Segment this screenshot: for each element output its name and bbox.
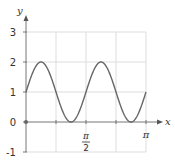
x-tick-label-pi-half: π π 2 bbox=[82, 131, 90, 153]
y-tick-label: -1 bbox=[6, 147, 16, 158]
sine-chart: y x 3210-1 π π 2 π bbox=[0, 0, 175, 164]
y-tick-label: 0 bbox=[10, 117, 16, 128]
x-tick-label-pi: π bbox=[142, 129, 150, 140]
y-axis-label: y bbox=[16, 5, 23, 16]
pi-half-denominator-text: 2 bbox=[83, 143, 89, 153]
x-axis-label: x bbox=[165, 116, 171, 127]
y-axis-arrow-icon bbox=[24, 15, 29, 21]
x-axis-arrow-icon bbox=[157, 120, 163, 125]
pi-half-numerator: π bbox=[82, 131, 90, 141]
y-tick-label: 1 bbox=[10, 87, 16, 98]
y-tick-label: 2 bbox=[10, 57, 16, 68]
y-tick-label: 3 bbox=[10, 27, 16, 38]
y-tick-labels: 3210-1 bbox=[6, 27, 16, 158]
origin-dot bbox=[24, 120, 28, 124]
